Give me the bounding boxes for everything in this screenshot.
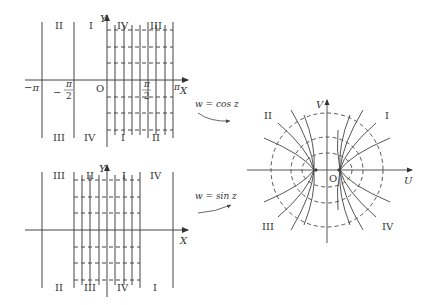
- y-axis-label: Y: [99, 163, 107, 174]
- tick-pi: π: [173, 82, 181, 92]
- region-label: III: [53, 132, 65, 143]
- top-left-z-plane: [25, 15, 188, 147]
- tick-neg-pi: −π: [24, 82, 39, 93]
- tick-half-pi-num: π: [143, 79, 151, 89]
- quadrant-label: IV: [382, 221, 394, 232]
- region-label: II: [86, 170, 94, 181]
- conformal-map-diagram: Y X O −π − π 2 π 2 π II I IV III III IV …: [0, 0, 430, 305]
- tick-neg-sign: −: [53, 87, 61, 98]
- bottom-left-z-plane: [25, 165, 188, 297]
- mapping-sin-label: w = sin z: [195, 191, 237, 201]
- region-label: I: [89, 20, 93, 31]
- origin-label: O: [96, 83, 104, 94]
- top-left-labels: Y X O −π − π 2 π 2 π II I IV III III IV …: [24, 13, 188, 143]
- v-axis-label: V: [316, 99, 325, 110]
- x-axis-label: X: [179, 235, 188, 246]
- mapping-sin: w = sin z: [195, 191, 237, 213]
- region-label: I: [121, 132, 125, 143]
- region-label: I: [122, 170, 126, 181]
- origin-label: O: [329, 173, 337, 184]
- tick-neg-half-pi-num: π: [65, 79, 73, 89]
- quadrant-label: II: [264, 110, 272, 121]
- mapping-cos: w = cos z: [195, 99, 239, 121]
- quadrant-label: I: [385, 110, 389, 121]
- region-label: II: [55, 282, 63, 293]
- tick-half-pi-den: 2: [144, 91, 150, 101]
- region-label: III: [150, 20, 162, 31]
- bottom-left-labels: Y X III II I IV II III IV I: [53, 163, 188, 293]
- region-label: I: [153, 282, 157, 293]
- quadrant-label: III: [262, 221, 274, 232]
- w-plane-labels: V U O I II III IV: [262, 99, 413, 232]
- region-label: II: [55, 20, 63, 31]
- region-label: II: [152, 132, 160, 143]
- curved-arrow-icon: [198, 205, 231, 213]
- region-label: III: [84, 282, 96, 293]
- x-axis-label: X: [179, 85, 188, 96]
- mapping-cos-label: w = cos z: [195, 99, 239, 109]
- curved-arrow-icon: [198, 113, 230, 121]
- region-label: III: [53, 170, 65, 181]
- region-label: IV: [117, 20, 129, 31]
- region-label: IV: [150, 170, 162, 181]
- region-label: IV: [84, 132, 96, 143]
- region-label: IV: [117, 282, 129, 293]
- u-axis-label: U: [404, 175, 413, 186]
- tick-neg-half-pi-den: 2: [66, 91, 72, 101]
